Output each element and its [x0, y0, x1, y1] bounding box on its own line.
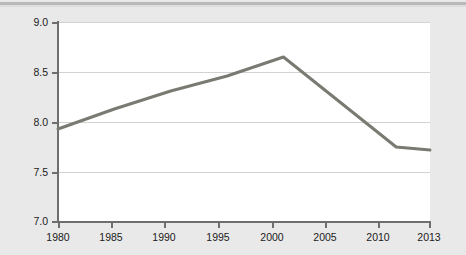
x-tick-2013	[429, 222, 431, 228]
y-tick-8-5	[52, 72, 58, 74]
x-tick-label-2013: 2013	[409, 231, 449, 243]
x-tick-label-1995: 1995	[198, 231, 238, 243]
x-tick-2005	[325, 222, 327, 228]
y-tick-label-7-5: 7.5	[18, 166, 48, 178]
y-tick-8-0	[52, 122, 58, 124]
x-tick-1995	[218, 222, 220, 228]
x-tick-label-1985: 1985	[91, 231, 131, 243]
top-divider-shadow	[0, 5, 466, 7]
x-tick-1980	[58, 222, 60, 228]
x-tick-label-1980: 1980	[38, 231, 78, 243]
x-tick-1985	[111, 222, 113, 228]
x-axis-line	[57, 221, 431, 223]
x-tick-2010	[378, 222, 380, 228]
x-tick-label-2005: 2005	[305, 231, 345, 243]
x-tick-1990	[164, 222, 166, 228]
y-tick-7-5	[52, 172, 58, 174]
gridline-8-5	[58, 72, 430, 73]
y-tick-label-9-0: 9.0	[18, 16, 48, 28]
y-tick-label-8-5: 8.5	[18, 66, 48, 78]
gridline-8-0	[58, 122, 430, 123]
gridline-9-0	[58, 22, 430, 23]
gridline-7-5	[58, 172, 430, 173]
y-tick-label-8-0: 8.0	[18, 116, 48, 128]
x-tick-label-1990: 1990	[144, 231, 184, 243]
y-tick-label-7-0: 7.0	[18, 215, 48, 227]
chart-screenshot: 9.0 8.5 8.0 7.5 7.0 EFW rating 1980 1985…	[0, 0, 466, 255]
x-tick-label-2010: 2010	[358, 231, 398, 243]
x-tick-label-2000: 2000	[252, 231, 292, 243]
y-tick-9-0	[52, 22, 58, 24]
x-tick-2000	[272, 222, 274, 228]
plot-area	[58, 22, 430, 222]
